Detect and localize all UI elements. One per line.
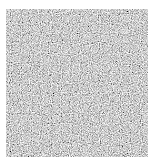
noise-graphic xyxy=(6,9,148,157)
noise-texture xyxy=(6,9,148,157)
image-frame xyxy=(0,0,154,161)
